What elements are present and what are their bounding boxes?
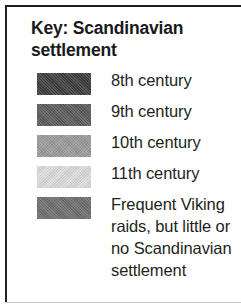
swatch-texture [37,166,91,188]
swatch-9th-century [37,104,91,126]
legend-label-line: Frequent Viking [111,194,239,216]
legend-row-viking-raids: Frequent Viking raids, but little or no … [7,195,241,287]
legend-bottom-divider [5,302,241,303]
legend-row-11th-century: 11th century [7,164,241,195]
legend-label-9th-century: 9th century [111,101,239,123]
legend-row-8th-century: 8th century [7,71,241,102]
swatch-texture [37,135,91,157]
legend-label-8th-century: 8th century [111,70,239,92]
legend-title: Key: Scandinavian settlement [31,17,231,62]
swatch-8th-century [37,73,91,95]
legend-label-line: raids, but little or [111,216,239,238]
legend-label-line: settlement [111,260,239,282]
swatch-11th-century [37,166,91,188]
swatch-viking-raids [37,197,91,219]
legend-label-line: 8th century [111,70,239,92]
swatch-10th-century [37,135,91,157]
legend-label-10th-century: 10th century [111,132,239,154]
legend-label-viking-raids: Frequent Viking raids, but little or no … [111,194,239,282]
legend-label-line: 10th century [111,132,239,154]
swatch-texture [37,104,91,126]
legend-label-11th-century: 11th century [111,163,239,185]
swatch-texture [37,73,91,95]
legend-row-9th-century: 9th century [7,102,241,133]
legend-label-line: no Scandinavian [111,238,239,260]
legend-label-line: 11th century [111,163,239,185]
legend-entry-list: 8th century 9th century 10th century [7,71,241,287]
legend-panel: Key: Scandinavian settlement 8th century… [5,5,241,303]
swatch-texture [37,197,91,219]
legend-label-line: 9th century [111,101,239,123]
legend-row-10th-century: 10th century [7,133,241,164]
